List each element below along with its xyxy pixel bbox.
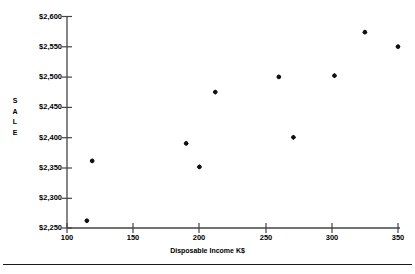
plot-area xyxy=(0,0,415,274)
data-point-core xyxy=(291,135,295,139)
bottom-divider xyxy=(3,264,412,265)
data-point-core xyxy=(90,159,94,163)
data-point-core xyxy=(213,90,217,94)
x-axis-title: Disposable Income K$ xyxy=(0,247,415,254)
data-point-core xyxy=(396,45,400,49)
data-point-core xyxy=(85,219,89,223)
data-point-core xyxy=(197,165,201,169)
data-point-core xyxy=(184,141,188,145)
data-point-core xyxy=(277,75,281,79)
data-point-core xyxy=(363,30,367,34)
data-point-series xyxy=(84,30,400,224)
scatter-plot-figure: S A L E $2,600 $2,550 $2,500 $2,450 $2,4… xyxy=(0,0,415,274)
data-point-core xyxy=(332,74,336,78)
